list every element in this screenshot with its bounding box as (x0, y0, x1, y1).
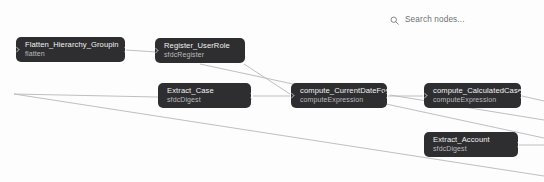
node-title: compute_CurrentDateForC (300, 86, 378, 95)
search-input[interactable]: Search nodes... (390, 13, 465, 27)
node-subtitle: sfdcDigest (433, 145, 509, 154)
node-subtitle: computeExpression (300, 96, 378, 105)
graph-canvas[interactable]: Flatten_Hierarchy_GroupinflattenRegister… (0, 0, 544, 182)
node-output-port[interactable] (516, 91, 521, 100)
graph-edge (126, 50, 156, 52)
node-input-port[interactable] (16, 45, 21, 54)
node-output-port[interactable] (382, 91, 387, 100)
node-title: Extract_Case (167, 86, 242, 95)
node-subtitle: sfdcRegister (164, 51, 236, 60)
node-title: Flatten_Hierarchy_Groupin (25, 40, 116, 49)
graph-edge (522, 96, 544, 101)
node-subtitle: flatten (25, 50, 116, 59)
node-input-port[interactable] (291, 91, 296, 100)
search-icon (390, 16, 399, 25)
node-subtitle: sfdcDigest (167, 96, 242, 105)
node-input-port[interactable] (424, 91, 429, 100)
node-output-port[interactable] (513, 140, 518, 149)
graph-node-compute-currentdateforc[interactable]: compute_CurrentDateForCcomputeExpression (291, 83, 387, 108)
node-title: Register_UserRole (164, 41, 236, 50)
node-subtitle: computeExpression (433, 96, 512, 105)
graph-node-extract-case[interactable]: Extract_CasesfdcDigest (158, 83, 251, 108)
search-placeholder: Search nodes... (405, 16, 465, 24)
graph-node-extract-account[interactable]: Extract_AccountsfdcDigest (424, 132, 518, 157)
node-title: compute_CalculatedCaseD (433, 86, 512, 95)
graph-node-flatten-hierarchy-groupin[interactable]: Flatten_Hierarchy_Groupinflatten (16, 37, 125, 62)
node-title: Extract_Account (433, 135, 509, 144)
graph-node-register-userrole[interactable]: Register_UserRolesfdcRegister (155, 38, 245, 63)
node-output-port[interactable] (246, 91, 251, 100)
node-output-port[interactable] (120, 45, 125, 54)
node-input-port[interactable] (155, 46, 160, 55)
graph-node-compute-calculatedcased[interactable]: compute_CalculatedCaseDcomputeExpression (424, 83, 521, 108)
